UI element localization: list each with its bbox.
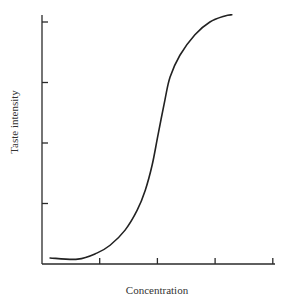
x-axis-label: Concentration	[126, 284, 189, 296]
series-line-taste-response	[50, 15, 232, 260]
x-ticks	[100, 258, 273, 264]
y-axis-label: Taste intensity	[8, 90, 20, 154]
chart: Concentration Taste intensity	[0, 0, 283, 307]
y-ticks	[42, 22, 48, 204]
y-axis	[42, 15, 48, 264]
series-layer	[50, 15, 232, 260]
